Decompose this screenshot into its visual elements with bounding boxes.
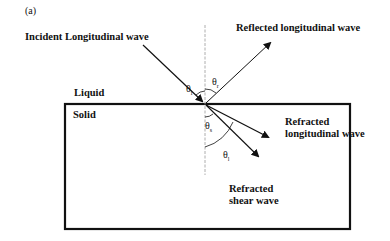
reflected-wave-arrow: [206, 43, 270, 103]
figure-label: (a): [25, 5, 36, 17]
shear-angle-arc: [205, 114, 213, 117]
solid-label: Solid: [73, 109, 96, 121]
incident-wave-arrow: [143, 45, 202, 101]
incident-angle-label: θi: [186, 84, 192, 98]
refracted-shear-arrow: [206, 105, 258, 156]
reflected-angle-label: θr: [212, 77, 219, 91]
refracted-longitudinal-label-line1: Refracted: [285, 116, 329, 128]
refracted-shear-label-line1: Refracted: [229, 183, 273, 195]
refracted-shear-label-line2: shear wave: [229, 195, 279, 207]
incident-wave-label: Incident Longitudinal wave: [25, 31, 149, 43]
refracted-longitudinal-label-line2: longitudinal wave: [285, 128, 365, 140]
incident-angle-arc: [196, 91, 205, 95]
longitudinal-angle-label: θl: [223, 150, 229, 164]
refracted-longitudinal-arrow: [206, 105, 268, 137]
reflected-wave-label: Reflected longitudinal wave: [236, 22, 360, 34]
shear-angle-label: θs: [205, 121, 212, 135]
liquid-label: Liquid: [74, 87, 104, 99]
